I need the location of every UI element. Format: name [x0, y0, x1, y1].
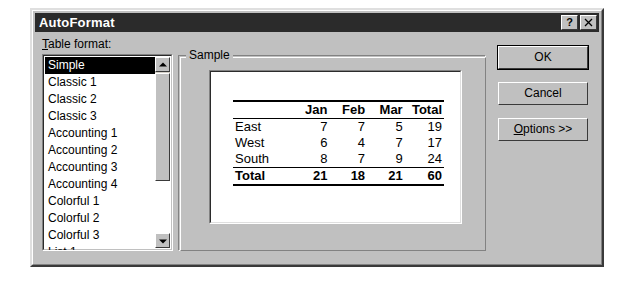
help-button[interactable]: ? — [561, 15, 578, 30]
table-column-header: Jan — [292, 101, 329, 119]
sample-table-head: JanFebMarTotal — [233, 101, 444, 119]
table-header-row: JanFebMarTotal — [233, 101, 444, 119]
table-row: East77519 — [233, 119, 444, 136]
table-cell: 60 — [405, 168, 444, 186]
scrollbar-track[interactable] — [155, 181, 170, 233]
table-cell: 4 — [330, 135, 368, 151]
table-row: West64717 — [233, 135, 444, 151]
list-item[interactable]: Classic 1 — [45, 74, 156, 91]
scroll-up-arrow-icon[interactable] — [155, 57, 170, 72]
table-cell: 7 — [330, 119, 368, 136]
list-item[interactable]: Simple — [45, 57, 158, 74]
table-row: Total21182160 — [233, 168, 444, 186]
listbox-inner-bevel: SimpleClassic 1Classic 2Classic 3Account… — [43, 55, 172, 250]
table-cell: 21 — [367, 168, 405, 186]
window-title: AutoFormat — [39, 15, 115, 30]
list-item[interactable]: Colorful 1 — [45, 193, 156, 210]
table-column-header: Feb — [330, 101, 368, 119]
autoformat-dialog: AutoFormat ? Table format: SimpleClassic… — [30, 8, 604, 267]
ok-button[interactable]: OK — [498, 46, 588, 69]
triangle-down-icon — [159, 239, 167, 243]
table-cell: 19 — [405, 119, 444, 136]
sample-table: JanFebMarTotal East77519West64717South87… — [233, 100, 444, 186]
list-item[interactable]: Accounting 4 — [45, 176, 156, 193]
options-button[interactable]: Options >> — [498, 118, 588, 141]
table-cell: 7 — [367, 135, 405, 151]
table-cell: 18 — [330, 168, 368, 186]
sample-table-body: East77519West64717South87924Total2118216… — [233, 119, 444, 186]
title-bar: AutoFormat ? — [35, 13, 599, 32]
scroll-down-arrow-icon[interactable] — [155, 233, 170, 248]
table-column-header: Mar — [367, 101, 405, 119]
table-row-label: South — [233, 151, 292, 168]
listbox-items: SimpleClassic 1Classic 2Classic 3Account… — [45, 57, 156, 251]
scrollbar-thumb[interactable] — [155, 73, 170, 181]
table-cell: 7 — [330, 151, 368, 168]
table-row-label: West — [233, 135, 292, 151]
table-cell: 17 — [405, 135, 444, 151]
sample-group-legend: Sample — [186, 48, 233, 62]
close-button[interactable] — [580, 15, 597, 30]
table-cell: 5 — [367, 119, 405, 136]
sample-preview-inner: JanFebMarTotal East77519West64717South87… — [210, 71, 461, 223]
table-row-label: East — [233, 119, 292, 136]
cancel-button[interactable]: Cancel — [498, 82, 588, 105]
list-item[interactable]: Colorful 2 — [45, 210, 156, 227]
table-cell: 6 — [292, 135, 329, 151]
table-corner-cell — [233, 101, 292, 119]
options-button-rest: ptions >> — [523, 122, 572, 136]
table-cell: 21 — [292, 168, 329, 186]
list-item[interactable]: List 1 — [45, 244, 156, 251]
table-row: South87924 — [233, 151, 444, 168]
table-format-label-rest: able format: — [48, 37, 111, 51]
list-item[interactable]: Accounting 3 — [45, 159, 156, 176]
sample-preview-panel: JanFebMarTotal East77519West64717South87… — [209, 70, 462, 224]
table-cell: 9 — [367, 151, 405, 168]
list-item[interactable]: Classic 3 — [45, 108, 156, 125]
listbox-scrollbar[interactable] — [155, 57, 170, 248]
options-button-mnemonic: O — [514, 122, 523, 136]
table-cell: 24 — [405, 151, 444, 168]
close-icon — [584, 18, 593, 27]
table-format-listbox[interactable]: SimpleClassic 1Classic 2Classic 3Account… — [42, 54, 173, 251]
table-column-header: Total — [405, 101, 444, 119]
triangle-up-icon — [159, 62, 167, 66]
list-item[interactable]: Accounting 2 — [45, 142, 156, 159]
table-cell: 7 — [292, 119, 329, 136]
table-row-label: Total — [233, 168, 292, 186]
list-item[interactable]: Colorful 3 — [45, 227, 156, 244]
table-format-label: Table format: — [42, 37, 111, 51]
table-cell: 8 — [292, 151, 329, 168]
list-item[interactable]: Classic 2 — [45, 91, 156, 108]
list-item[interactable]: Accounting 1 — [45, 125, 156, 142]
